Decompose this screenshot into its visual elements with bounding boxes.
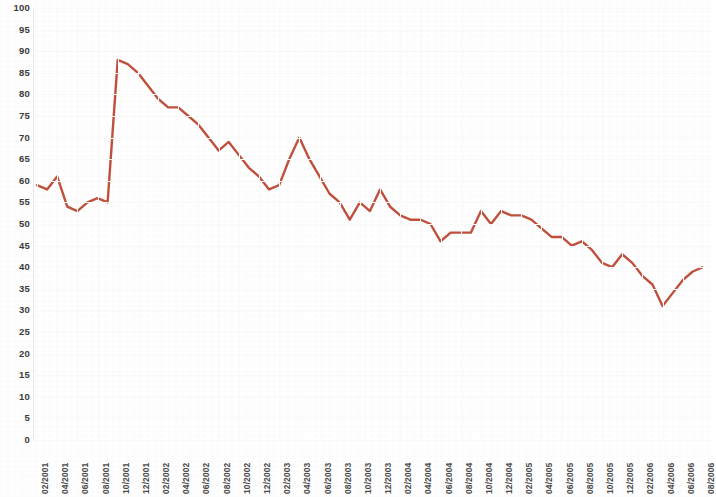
- gridline-horizontal: [33, 30, 711, 31]
- x-tick-label: 06/2001: [81, 463, 90, 494]
- y-tick-label: 55: [19, 198, 30, 208]
- gridline-vertical: [360, 8, 361, 440]
- x-tick-label: 08/2006: [707, 463, 716, 494]
- y-tick-label: 90: [19, 46, 30, 56]
- y-tick-label: 45: [19, 241, 30, 251]
- x-tick-label: 02/2005: [525, 463, 534, 494]
- x-tick-label: 04/2002: [182, 463, 191, 494]
- y-tick-label: 0: [25, 435, 30, 445]
- y-tick-label: 25: [19, 327, 30, 337]
- y-tick-label: 70: [19, 133, 30, 143]
- y-tick-label: 5: [25, 414, 30, 424]
- gridline-horizontal: [33, 224, 711, 225]
- gridline-horizontal: [33, 397, 711, 398]
- gridline-vertical: [279, 8, 280, 440]
- gridline-vertical: [37, 8, 38, 440]
- x-axis-tick-labels: 02/200104/200106/200108/200110/200112/20…: [33, 444, 711, 497]
- gridline-horizontal: [33, 310, 711, 311]
- x-tick-label: 02/2001: [41, 463, 50, 494]
- gridline-vertical: [562, 8, 563, 440]
- y-tick-label: 75: [19, 111, 30, 121]
- x-tick-label: 10/2005: [606, 463, 615, 494]
- x-tick-label: 06/2006: [687, 463, 696, 494]
- gridline-vertical: [420, 8, 421, 440]
- gridline-vertical: [198, 8, 199, 440]
- x-tick-label: 06/2002: [202, 463, 211, 494]
- gridline-vertical: [481, 8, 482, 440]
- gridline-vertical: [622, 8, 623, 440]
- x-tick-label: 08/2002: [223, 463, 232, 494]
- x-tick-label: 08/2005: [586, 463, 595, 494]
- x-tick-label: 10/2004: [485, 463, 494, 494]
- gridline-horizontal: [33, 354, 711, 355]
- x-tick-label: 10/2002: [243, 463, 252, 494]
- gridline-vertical: [219, 8, 220, 440]
- y-tick-label: 20: [19, 349, 30, 359]
- x-tick-label: 02/2004: [404, 463, 413, 494]
- y-tick-label: 15: [19, 370, 30, 380]
- gridline-vertical: [400, 8, 401, 440]
- x-tick-label: 04/2006: [667, 463, 676, 494]
- x-tick-label: 12/2002: [263, 463, 272, 494]
- gridline-horizontal: [33, 181, 711, 182]
- gridline-vertical: [259, 8, 260, 440]
- gridline-horizontal: [33, 51, 711, 52]
- gridline-vertical: [703, 8, 704, 440]
- gridline-horizontal: [33, 267, 711, 268]
- x-tick-label: 06/2003: [324, 463, 333, 494]
- gridline-vertical: [663, 8, 664, 440]
- x-tick-label: 12/2001: [142, 463, 151, 494]
- gridline-horizontal: [33, 289, 711, 290]
- y-tick-label: 80: [19, 90, 30, 100]
- plot-area: [33, 8, 711, 440]
- y-tick-label: 65: [19, 154, 30, 164]
- gridline-vertical: [320, 8, 321, 440]
- x-tick-label: 04/2005: [545, 463, 554, 494]
- y-tick-label: 85: [19, 68, 30, 78]
- gridline-vertical: [441, 8, 442, 440]
- gridline-horizontal: [33, 8, 711, 9]
- gridline-vertical: [98, 8, 99, 440]
- x-tick-label: 04/2004: [424, 463, 433, 494]
- y-tick-label: 100: [14, 3, 30, 13]
- gridline-vertical: [158, 8, 159, 440]
- gridline-horizontal: [33, 332, 711, 333]
- gridline-vertical: [239, 8, 240, 440]
- gridline-vertical: [683, 8, 684, 440]
- gridline-vertical: [521, 8, 522, 440]
- gridline-vertical: [461, 8, 462, 440]
- gridline-horizontal: [33, 159, 711, 160]
- series-polyline: [37, 60, 703, 306]
- gridline-vertical: [380, 8, 381, 440]
- gridline-horizontal: [33, 138, 711, 139]
- x-tick-label: 10/2001: [122, 463, 131, 494]
- x-tick-label: 08/2001: [102, 463, 111, 494]
- y-tick-label: 10: [19, 392, 30, 402]
- gridline-horizontal: [33, 73, 711, 74]
- x-tick-label: 02/2006: [646, 463, 655, 494]
- gridline-vertical: [299, 8, 300, 440]
- gridline-horizontal: [33, 246, 711, 247]
- gridline-horizontal: [33, 440, 711, 441]
- x-tick-label: 02/2002: [162, 463, 171, 494]
- x-tick-label: 12/2005: [626, 463, 635, 494]
- y-tick-label: 50: [19, 219, 30, 229]
- y-tick-label: 95: [19, 25, 30, 35]
- x-tick-label: 10/2003: [364, 463, 373, 494]
- y-axis-tick-labels: 1009590858075706560555045403530252015105…: [0, 0, 30, 448]
- gridline-horizontal: [33, 418, 711, 419]
- gridline-vertical: [541, 8, 542, 440]
- gridline-vertical: [77, 8, 78, 440]
- x-tick-label: 06/2005: [566, 463, 575, 494]
- x-tick-label: 08/2003: [344, 463, 353, 494]
- x-tick-label: 12/2004: [505, 463, 514, 494]
- gridline-vertical: [57, 8, 58, 440]
- gridline-vertical: [602, 8, 603, 440]
- x-tick-label: 02/2003: [283, 463, 292, 494]
- gridline-vertical: [138, 8, 139, 440]
- x-tick-label: 06/2004: [445, 463, 454, 494]
- y-tick-label: 40: [19, 262, 30, 272]
- gridline-vertical: [118, 8, 119, 440]
- gridline-vertical: [178, 8, 179, 440]
- x-tick-label: 12/2003: [384, 463, 393, 494]
